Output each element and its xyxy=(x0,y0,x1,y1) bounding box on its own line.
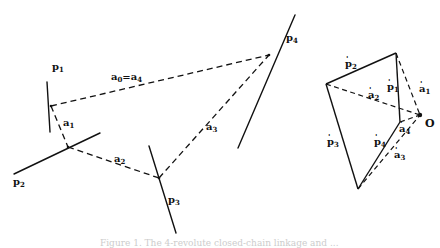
label-a0-equals-a4: a0=a4 xyxy=(111,72,142,83)
label-a1: a1 xyxy=(63,118,74,129)
joint-1 xyxy=(50,105,53,108)
line-p3 xyxy=(149,146,176,233)
vector-a4-prime xyxy=(400,115,420,122)
label-p3-prime: p3 xyxy=(327,137,339,148)
label-a4-prime: a4 xyxy=(399,124,410,135)
label-p2-prime: p2 xyxy=(345,59,357,70)
label-a1-prime: a1 xyxy=(419,84,430,95)
label-origin: O xyxy=(425,118,435,129)
label-p2: p2 xyxy=(13,177,25,188)
label-p4-prime: p4 xyxy=(374,137,386,148)
label-a2-prime: a2 xyxy=(368,90,379,101)
joint-4 xyxy=(268,54,271,57)
origin-point xyxy=(418,113,422,117)
label-a3: a3 xyxy=(206,122,217,133)
label-p3: p3 xyxy=(168,195,180,206)
label-a3-prime: a3 xyxy=(394,150,405,161)
line-p1 xyxy=(47,82,50,132)
side-p2-prime xyxy=(326,53,396,84)
joint-2 xyxy=(67,146,70,149)
label-p1: p1 xyxy=(52,62,64,73)
label-a2: a2 xyxy=(114,154,125,165)
figure-caption: Figure 1. The 4-revolute closed-chain li… xyxy=(100,238,339,248)
joint-3 xyxy=(158,177,161,180)
link-a0-a4 xyxy=(51,55,269,106)
vector-a3-prime xyxy=(358,115,420,189)
link-a3 xyxy=(159,55,269,178)
label-p4: p4 xyxy=(286,33,298,44)
label-p1-prime: p1 xyxy=(387,82,399,93)
